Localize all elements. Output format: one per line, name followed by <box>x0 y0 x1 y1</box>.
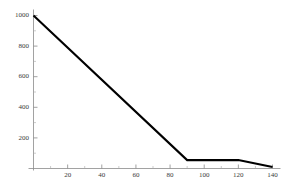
y-axis-tick-label: 600 <box>19 72 30 80</box>
line-chart: 2004006008001000 20406080100120140 <box>0 0 292 185</box>
chart-container: 2004006008001000 20406080100120140 <box>0 0 292 185</box>
x-axis-tick-label: 20 <box>64 171 72 179</box>
y-axis-tick-label: 1000 <box>15 11 30 19</box>
chart-background <box>0 0 292 185</box>
x-axis-tick-label: 120 <box>233 171 244 179</box>
y-axis-tick-label: 800 <box>19 42 30 50</box>
x-axis-tick-label: 80 <box>167 171 175 179</box>
x-axis-tick-label: 60 <box>132 171 140 179</box>
x-axis-tick-label: 40 <box>98 171 106 179</box>
y-axis-tick-label: 400 <box>19 103 30 111</box>
y-axis-tick-label: 200 <box>19 134 30 142</box>
x-axis-tick-label: 140 <box>267 171 278 179</box>
x-axis-tick-label: 100 <box>199 171 210 179</box>
